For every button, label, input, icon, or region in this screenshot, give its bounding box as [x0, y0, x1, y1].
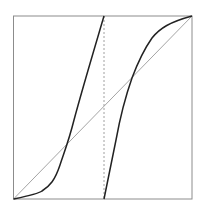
left-curve [14, 16, 105, 199]
chart-canvas [0, 0, 201, 212]
right-curve [104, 16, 192, 199]
diagonal-reference-line [14, 16, 193, 199]
